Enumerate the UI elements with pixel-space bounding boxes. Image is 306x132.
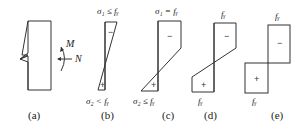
tension-sign-e: + — [254, 74, 259, 84]
panel-label-a: (a) — [28, 109, 41, 122]
top-stress-b: σ₁ ≤ fᵧ — [97, 6, 119, 16]
compression-sign-e: − — [277, 38, 282, 48]
stress-block-c — [141, 21, 181, 91]
top-stress-c: σ₁ = fᵧ — [155, 6, 178, 16]
top-stress-d: fᵧ — [221, 9, 226, 19]
tension-sign-b: + — [100, 80, 105, 90]
panel-e: fᵧ fᵧ − + (e) — [245, 11, 290, 122]
panel-label-b: (b) — [101, 109, 114, 122]
moment-label: M — [65, 38, 75, 49]
bottom-stress-e: fᵧ — [252, 96, 257, 106]
axial-label: N — [74, 53, 83, 64]
panel-d: fᵧ fᵧ − + (d) — [192, 9, 236, 122]
panel-a: M N (a) — [20, 21, 83, 122]
compression-sign-d: − — [224, 31, 229, 41]
compression-sign-b: − — [108, 27, 113, 37]
stress-distribution-diagram: M N (a) σ₁ ≤ fᵧ σ₂ < fᵧ − + (b) σ₁ = fᵧ … — [0, 0, 306, 132]
bottom-stress-d: fᵧ — [198, 96, 203, 106]
top-stress-e: fᵧ — [275, 11, 280, 21]
bottom-stress-b: σ₂ < fᵧ — [86, 96, 109, 106]
tension-sign-c: + — [151, 80, 156, 90]
tension-sign-d: + — [201, 80, 206, 90]
compression-sign-c: − — [167, 31, 172, 41]
panel-label-c: (c) — [162, 109, 175, 122]
bottom-stress-c: σ₂ ≤ fᵧ — [133, 96, 155, 106]
panel-c: σ₁ = fᵧ σ₂ ≤ fᵧ − + (c) — [133, 6, 181, 122]
panel-b: σ₁ ≤ fᵧ σ₂ < fᵧ − + (b) — [86, 6, 119, 122]
panel-label-d: (d) — [204, 109, 217, 122]
panel-label-e: (e) — [271, 109, 284, 122]
